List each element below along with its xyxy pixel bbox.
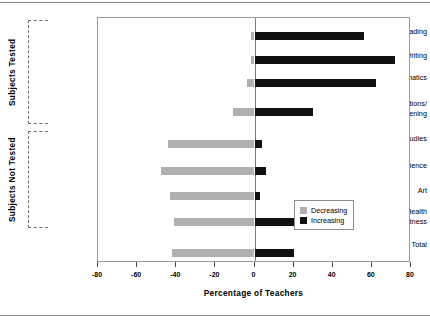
x-tick-neg60: [136, 262, 137, 267]
chart-legend: Decreasing Increasing: [294, 200, 354, 230]
x-tick-label-0: 0: [239, 271, 269, 278]
x-tick-label-60: 60: [356, 271, 386, 278]
x-tick-20: [293, 262, 294, 267]
bar-increasing-total: [255, 249, 294, 257]
bar-decreasing-science: [161, 167, 255, 175]
x-tick-label-neg80: -80: [82, 271, 112, 278]
x-tick-0: [254, 262, 255, 267]
bar-increasing-writing: [255, 56, 396, 64]
figure-bottom-rule: [0, 315, 430, 316]
figure-top-rule: [0, 2, 430, 3]
x-tick-neg40: [175, 262, 176, 267]
x-tick-neg80: [97, 262, 98, 267]
bar-increasing-social-studies: [255, 140, 263, 148]
group-label-subjects-not-tested: Subjects Not Tested: [8, 128, 17, 232]
group-bracket-subjects-not-tested: [28, 131, 48, 228]
x-tick-40: [332, 262, 333, 267]
x-tick-neg20: [214, 262, 215, 267]
x-tick-label-80: 80: [395, 271, 425, 278]
legend-swatch-increasing: [300, 217, 307, 224]
bar-decreasing-health-and-fitness: [174, 218, 254, 226]
x-tick-label-neg60: -60: [121, 271, 151, 278]
x-axis-title: Percentage of Teachers: [97, 288, 410, 298]
x-tick-60: [371, 262, 372, 267]
chart-figure: Subjects Tested Subjects Not Tested Read…: [0, 0, 430, 321]
bar-decreasing-mathematics: [247, 79, 255, 87]
x-tick-label-neg40: -40: [160, 271, 190, 278]
group-label-subjects-tested: Subjects Tested: [8, 22, 17, 122]
legend-item-decreasing: Decreasing: [300, 205, 347, 215]
bar-increasing-communications-listening: [255, 108, 314, 116]
legend-swatch-decreasing: [300, 207, 307, 214]
bar-decreasing-social-studies: [168, 140, 254, 148]
x-tick-label-40: 40: [317, 271, 347, 278]
legend-label-decreasing: Decreasing: [311, 206, 347, 215]
legend-label-increasing: Increasing: [311, 216, 344, 225]
bar-decreasing-total: [172, 249, 254, 257]
bar-increasing-mathematics: [255, 79, 376, 87]
group-bracket-subjects-tested: [28, 20, 48, 124]
x-tick-label-20: 20: [278, 271, 308, 278]
bar-decreasing-art: [170, 192, 254, 200]
legend-item-increasing: Increasing: [300, 215, 347, 225]
plot-area: Decreasing Increasing: [97, 17, 410, 262]
x-tick-80: [410, 262, 411, 267]
bar-increasing-art: [255, 192, 261, 200]
x-tick-label-neg20: -20: [199, 271, 229, 278]
bar-increasing-science: [255, 167, 267, 175]
bar-increasing-health-and-fitness: [255, 218, 294, 226]
bar-decreasing-communications-listening: [233, 108, 255, 116]
bar-increasing-reading: [255, 32, 365, 40]
